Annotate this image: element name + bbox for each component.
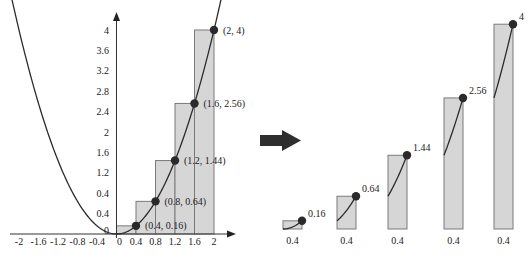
x-tick-label: 1.6	[188, 236, 201, 247]
x-tick-labels: -2-1.6-1.2-0.8-0.400.40.81.21.62	[15, 236, 217, 247]
separated-bar: 1.440.4	[388, 142, 431, 246]
y-tick-label: 1.2	[97, 167, 110, 178]
bar-width-label: 0.4	[286, 235, 299, 246]
y-tick-label: 0	[104, 225, 109, 236]
y-tick-label: 0.4	[97, 208, 110, 219]
bar-top-dot	[509, 20, 517, 28]
x-tick-label: 0	[117, 236, 122, 247]
x-tick-label: -2	[15, 236, 23, 247]
bar-top-dot	[459, 94, 467, 102]
y-tick-label: 0.4	[97, 188, 110, 199]
sample-point-label: (0.8, 0.64)	[165, 196, 207, 208]
bar-rectangle	[494, 24, 513, 229]
bar-width-label: 0.4	[391, 235, 404, 246]
parabola-riemann-chart: -2-1.6-1.2-0.8-0.400.40.81.21.62 00.40.4…	[10, 0, 245, 247]
separated-bar: 40.4	[494, 11, 524, 246]
x-tick-label: 0.8	[149, 236, 162, 247]
bar-rectangle	[444, 98, 463, 229]
bar-width-label: 0.4	[497, 235, 510, 246]
sample-point-dot	[151, 197, 159, 205]
bar-width-label: 0.4	[340, 235, 353, 246]
sample-point-dot	[210, 26, 218, 34]
separated-bar: 2.560.4	[444, 85, 487, 246]
riemann-sum-figure: -2-1.6-1.2-0.8-0.400.40.81.21.62 00.40.4…	[0, 0, 530, 271]
sample-point-label: (1.2, 1.44)	[184, 155, 226, 167]
bar-width-label: 0.4	[447, 235, 460, 246]
y-tick-labels: 00.40.41.21.622.42.83.23.64	[97, 25, 110, 236]
separated-bar: 0.640.4	[337, 183, 380, 246]
sample-point-label: (0.4, 0.16)	[145, 220, 187, 232]
x-tick-label: -1.6	[31, 236, 47, 247]
bar-value-label: 2.56	[469, 85, 487, 96]
x-tick-label: -0.4	[89, 236, 105, 247]
bar-value-label: 4	[519, 11, 524, 22]
sample-point-dot	[171, 156, 179, 164]
y-tick-label: 1.6	[97, 147, 110, 158]
bar-value-label: 1.44	[413, 142, 431, 153]
x-tick-label: 0.4	[130, 236, 143, 247]
bar-top-dot	[298, 217, 306, 225]
y-tick-label: 3.6	[97, 45, 110, 56]
y-tick-label: 2.8	[97, 86, 110, 97]
x-tick-label: -0.8	[70, 236, 86, 247]
separated-bar: 0.160.4	[283, 208, 326, 246]
bar-value-label: 0.64	[362, 183, 380, 194]
y-tick-label: 2.4	[97, 106, 110, 117]
bar-top-dot	[403, 151, 411, 159]
sample-point-label: (1.6, 2.56)	[204, 98, 246, 110]
bar-value-label: 0.16	[308, 208, 326, 219]
y-tick-label: 4	[104, 25, 109, 36]
x-tick-label: -1.2	[50, 236, 66, 247]
y-tick-label: 2	[104, 127, 109, 138]
separated-rectangles-chart: 0.160.40.640.41.440.42.560.440.4	[283, 11, 524, 246]
sample-point-dot	[190, 99, 198, 107]
right-arrow-icon	[260, 130, 301, 151]
sample-point-dot	[132, 222, 140, 230]
x-tick-label: 2	[212, 236, 217, 247]
bar-top-dot	[352, 192, 360, 200]
riemann-rectangle	[175, 103, 195, 234]
x-tick-label: 1.2	[169, 236, 182, 247]
x-axis-arrow-icon	[227, 231, 236, 238]
y-tick-label: 3.2	[97, 65, 110, 76]
y-axis-arrow-icon	[113, 12, 120, 21]
sample-point-label: (2, 4)	[223, 25, 245, 37]
